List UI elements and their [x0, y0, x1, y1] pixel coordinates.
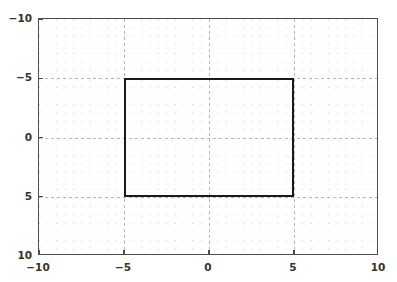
y-tick-label: 0: [4, 131, 32, 142]
x-tick-label: −10: [26, 262, 49, 273]
figure-canvas: −10−50510 −10−50510: [0, 0, 397, 282]
y-tick: [39, 137, 43, 138]
x-tick: [123, 250, 124, 254]
major-gridline-vertical: [294, 19, 295, 254]
x-tick-label: 0: [204, 262, 211, 273]
major-gridline-horizontal: [39, 197, 377, 198]
y-tick-label: −5: [4, 72, 32, 83]
rectangle-shape: [124, 78, 294, 197]
y-tick-label: 10: [4, 250, 32, 261]
y-tick-label: 5: [4, 191, 32, 202]
x-tick-label: 5: [289, 262, 296, 273]
plot-area: [38, 18, 378, 255]
x-tick-label: −5: [115, 262, 131, 273]
x-tick: [208, 250, 209, 254]
x-tick: [293, 250, 294, 254]
y-tick: [39, 78, 43, 79]
y-tick: [39, 18, 43, 19]
y-tick-label: −10: [4, 13, 32, 24]
x-tick: [38, 250, 39, 254]
y-tick: [39, 196, 43, 197]
x-tick-label: 10: [371, 262, 386, 273]
